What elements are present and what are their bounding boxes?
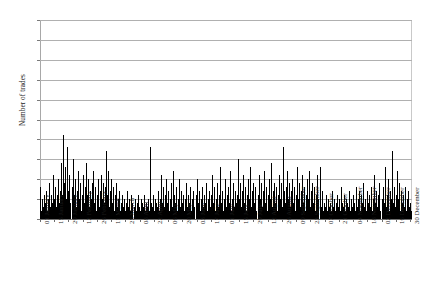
bar-series bbox=[40, 20, 412, 219]
bar bbox=[411, 211, 412, 219]
plot-area bbox=[40, 20, 412, 219]
y-tick-mark-0 bbox=[37, 219, 40, 220]
y-axis-title: Number of trades bbox=[19, 25, 27, 175]
gridline-0 bbox=[40, 219, 412, 220]
trades-bar-chart: Number of trades 05101520253035404550 01… bbox=[0, 0, 432, 285]
x-tick-label: 30 December bbox=[413, 188, 420, 224]
